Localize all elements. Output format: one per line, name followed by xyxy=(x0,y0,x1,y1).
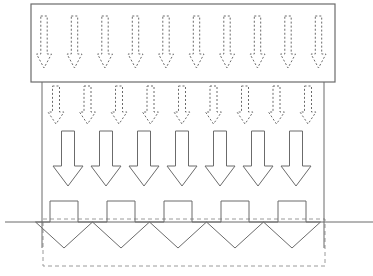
infiltration-arrow xyxy=(93,201,150,248)
flow-arrow xyxy=(80,86,96,124)
top-dashed-arrow-row xyxy=(37,16,327,68)
bottom-large-arrow-row xyxy=(36,201,321,248)
flow-arrow xyxy=(48,86,64,124)
second-dashed-arrow-row xyxy=(48,86,316,124)
flow-arrow xyxy=(189,16,204,68)
flow-arrow xyxy=(128,16,143,68)
flow-arrow xyxy=(159,16,174,68)
flow-arrow xyxy=(205,131,235,186)
flow-arrow xyxy=(111,86,127,124)
flow-arrow xyxy=(174,86,190,124)
flow-arrow xyxy=(129,131,159,186)
flow-arrow xyxy=(67,16,82,68)
diagram-root xyxy=(0,0,373,276)
flow-arrow xyxy=(98,16,113,68)
flow-arrow xyxy=(311,16,326,68)
flow-arrow xyxy=(250,16,265,68)
third-solid-arrow-row xyxy=(53,131,311,186)
flow-arrow xyxy=(206,86,222,124)
flow-arrow xyxy=(281,16,296,68)
flow-arrow xyxy=(243,131,273,186)
flow-arrow xyxy=(237,86,253,124)
flow-arrow xyxy=(220,16,235,68)
flow-arrow xyxy=(281,131,311,186)
flow-arrow xyxy=(269,86,285,124)
infiltration-arrow xyxy=(150,201,207,248)
flow-arrow xyxy=(53,131,83,186)
infiltration-arrow xyxy=(264,201,321,248)
flow-arrow xyxy=(143,86,159,124)
flow-arrow xyxy=(167,131,197,186)
infiltration-arrow xyxy=(207,201,264,248)
flow-arrow xyxy=(91,131,121,186)
flow-schematic-svg xyxy=(0,0,373,276)
infiltration-arrow xyxy=(36,201,93,248)
flow-arrow xyxy=(37,16,52,68)
flow-arrow xyxy=(300,86,316,124)
